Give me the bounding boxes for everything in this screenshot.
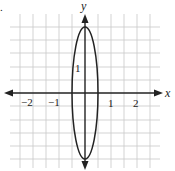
y-tick-label-1: 1	[75, 62, 81, 74]
x-axis-label: x	[164, 86, 171, 100]
x-tick-label-neg1: −1	[48, 96, 60, 108]
x-axis-left-arrow-icon	[4, 90, 13, 97]
x-tick-label-1: 1	[108, 97, 114, 109]
y-axis-down-arrow-icon	[82, 161, 89, 170]
corner-marker: .	[0, 1, 3, 13]
y-axis-label: y	[80, 0, 87, 13]
x-axis-right-arrow-icon	[154, 90, 163, 97]
y-axis-up-arrow-icon	[82, 14, 89, 23]
ellipse-graph: x y −2 −1 1 2 1 .	[0, 0, 175, 171]
x-tick-label-2: 2	[133, 97, 139, 109]
x-tick-label-neg2: −2	[21, 96, 33, 108]
